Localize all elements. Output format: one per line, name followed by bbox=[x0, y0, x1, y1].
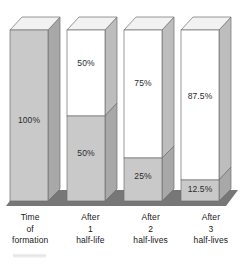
bar-4-front-filled bbox=[181, 180, 219, 201]
bar-4-front-empty bbox=[181, 30, 219, 180]
category-line: half-lives bbox=[121, 235, 181, 247]
bar-3-front-filled bbox=[124, 158, 162, 201]
category-line: half-lives bbox=[181, 235, 241, 247]
bar-group-4 bbox=[181, 17, 231, 201]
bar-2-side-empty bbox=[105, 17, 117, 116]
category-label-time-of-formation: Time of formation bbox=[0, 212, 60, 247]
category-line: After bbox=[121, 212, 181, 224]
category-label-after-3-half-lives: After 3 half-lives bbox=[181, 212, 241, 247]
bar-group-1 bbox=[10, 17, 60, 201]
category-line: of bbox=[0, 224, 60, 236]
category-label-row: Time of formation After 1 half-life Afte… bbox=[0, 212, 241, 247]
bar-1-side bbox=[48, 17, 60, 201]
category-line: After bbox=[181, 212, 241, 224]
bar-1-front-filled bbox=[10, 30, 48, 201]
bar-4-side-empty bbox=[219, 17, 231, 180]
category-line: After bbox=[60, 212, 120, 224]
category-line: 2 bbox=[121, 224, 181, 236]
category-line: half-life bbox=[60, 235, 120, 247]
category-line: 3 bbox=[181, 224, 241, 236]
category-line: 1 bbox=[60, 224, 120, 236]
category-line: Time bbox=[0, 212, 60, 224]
bar-2-side-filled bbox=[105, 103, 117, 201]
bar-3-side-empty bbox=[162, 17, 174, 158]
decay-chart-figure: 100% 50% 50% 75% 25% 87.5% 12.5% Time of… bbox=[0, 0, 241, 264]
category-line: formation bbox=[0, 235, 60, 247]
bar-group-3 bbox=[124, 17, 174, 201]
category-label-after-1-half-life: After 1 half-life bbox=[60, 212, 120, 247]
bar-2-front-empty bbox=[67, 30, 105, 116]
bar-2-front-filled bbox=[67, 116, 105, 201]
category-label-after-2-half-lives: After 2 half-lives bbox=[121, 212, 181, 247]
bar-group-2 bbox=[67, 17, 117, 201]
bar-3-front-empty bbox=[124, 30, 162, 158]
